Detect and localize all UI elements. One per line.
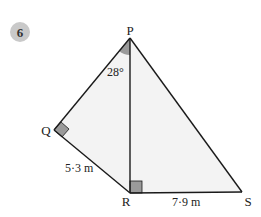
angle-label-P: 28° xyxy=(107,65,124,79)
side-label-QR: 5·3 m xyxy=(65,161,94,175)
right-angle-marker-R xyxy=(130,181,142,193)
vertex-label-S: S xyxy=(244,194,251,209)
triangle-diagram: 6 P Q R S 28° 5·3 m 7·9 m xyxy=(0,0,261,217)
diagram-canvas: 6 P Q R S 28° 5·3 m 7·9 m xyxy=(0,0,261,217)
vertex-label-Q: Q xyxy=(41,123,51,138)
question-number: 6 xyxy=(17,25,24,40)
edge-RS xyxy=(130,192,242,193)
side-label-RS: 7·9 m xyxy=(172,195,201,209)
vertex-label-P: P xyxy=(126,23,133,38)
vertex-label-R: R xyxy=(122,194,131,209)
